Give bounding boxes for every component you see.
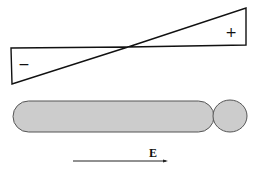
positive-label: + (225, 24, 237, 40)
potential-profile: − + (11, 8, 246, 84)
electric-field-arrow: E (73, 146, 168, 163)
arrow-head-icon (163, 160, 168, 163)
field-label: E (149, 146, 157, 160)
diagram-canvas: − + E (0, 0, 258, 172)
bead-body (213, 100, 247, 132)
negative-label: − (18, 56, 30, 72)
cell-shape (13, 100, 247, 132)
rod-body (13, 101, 214, 132)
